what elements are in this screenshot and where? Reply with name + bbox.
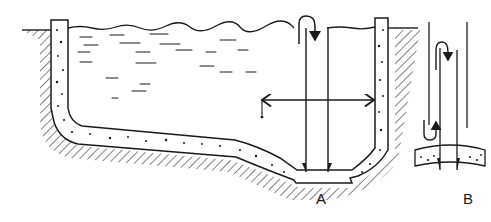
panel-label-b: B — [463, 191, 473, 206]
dimension-arrow — [261, 100, 374, 118]
flow-arrow-up-icon — [424, 120, 436, 140]
pool-drain-diagram — [0, 0, 491, 222]
flow-arrow-down-icon — [299, 16, 315, 44]
panel-label-a: A — [316, 191, 326, 206]
water-surface — [68, 21, 294, 32]
diagram-canvas: A B — [0, 0, 491, 222]
water-ripples — [78, 34, 256, 98]
flow-arrow-return-icon — [436, 42, 448, 70]
panel-b-detail — [415, 22, 485, 170]
water-surface-right — [327, 27, 375, 29]
